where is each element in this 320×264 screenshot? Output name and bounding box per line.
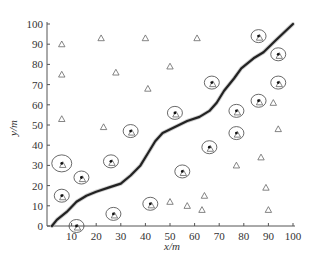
node-dot [129,130,132,133]
chart-container: 1020304050607080901000102030405060708090… [0,0,320,264]
node-dot [235,109,238,112]
x-tick-label: 10 [66,230,78,242]
triangle-marker [263,184,269,190]
node-dot [210,81,213,84]
triangle-marker [167,63,173,69]
node-dot [110,160,113,163]
y-tick-label: 70 [32,79,44,91]
triangle-marker [59,41,65,47]
node-dot [235,132,238,135]
node-dot [257,35,260,38]
triangle-marker [167,199,173,205]
node-dot [149,202,152,205]
triangle-marker [184,203,190,209]
triangle-marker [98,35,104,41]
y-tick-label: 90 [32,38,44,50]
triangle-marker [199,207,205,213]
triangle-marker [145,85,151,91]
node-dot [112,212,115,215]
triangle-marker [59,71,65,77]
y-tick-label: 10 [32,200,44,212]
y-axis-label: y/m [7,120,19,137]
x-tick-label: 40 [140,230,152,242]
y-tick-label: 50 [32,119,44,131]
x-tick-label: 70 [214,230,226,242]
triangle-marker [201,193,207,199]
x-axis-label: x/m [163,240,180,252]
y-tick-label: 60 [32,99,44,111]
triangle-marker [142,35,148,41]
triangle-marker [100,124,106,130]
scatter-plot: 1020304050607080901000102030405060708090… [0,0,320,264]
triangle-marker [270,100,276,106]
x-tick-label: 100 [285,230,302,242]
triangle-marker [275,126,281,132]
triangle-marker [258,154,264,160]
x-tick-label: 60 [189,230,201,242]
triangle-marker [265,207,271,213]
node-dot [75,225,78,228]
y-tick-label: 100 [27,18,44,30]
triangle-marker [59,116,65,122]
node-dot [60,162,63,165]
y-tick-label: 30 [32,159,44,171]
triangle-marker [113,69,119,75]
x-tick-label: 80 [238,230,250,242]
triangle-marker [233,162,239,168]
y-tick-label: 20 [32,180,44,192]
trajectory-line [52,24,293,226]
node-dot [181,170,184,173]
y-tick-label: 80 [32,58,44,70]
x-tick-label: 90 [263,230,275,242]
node-dot [60,194,63,197]
y-tick-label: 0 [38,220,44,232]
node-dot [174,111,177,114]
x-tick-label: 30 [115,230,127,242]
y-tick-label: 40 [32,139,44,151]
node-dot [80,176,83,179]
node-dot [208,146,211,149]
node-dot [257,99,260,102]
triangle-marker [194,35,200,41]
node-dot [277,53,280,56]
x-tick-label: 20 [91,230,103,242]
node-dot [277,81,280,84]
